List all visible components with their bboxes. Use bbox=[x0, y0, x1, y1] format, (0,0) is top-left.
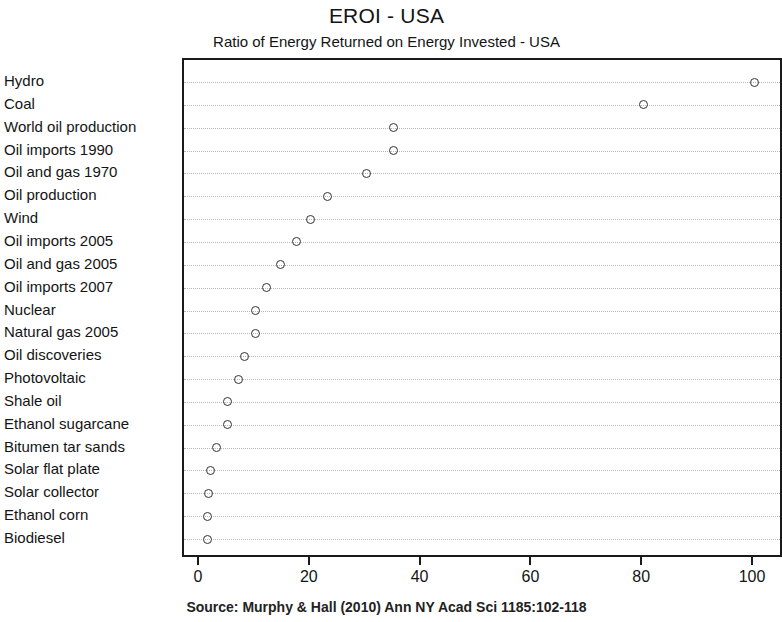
x-tick-mark bbox=[640, 557, 642, 565]
x-tick-label: 0 bbox=[194, 568, 203, 586]
category-label: Ethanol sugarcane bbox=[4, 415, 129, 430]
category-label: Oil and gas 1970 bbox=[4, 164, 117, 179]
category-label: Biodiesel bbox=[4, 530, 65, 545]
data-point-marker bbox=[362, 169, 371, 178]
plot-frame bbox=[182, 58, 782, 557]
x-tick-label: 60 bbox=[521, 568, 539, 586]
gridline bbox=[184, 242, 780, 243]
data-point-marker bbox=[251, 306, 260, 315]
gridline bbox=[184, 402, 780, 403]
gridline bbox=[184, 539, 780, 540]
data-point-marker bbox=[750, 78, 759, 87]
gridline bbox=[184, 493, 780, 494]
data-point-marker bbox=[240, 352, 249, 361]
x-tick-label: 40 bbox=[411, 568, 429, 586]
data-point-marker bbox=[323, 192, 332, 201]
category-label: Coal bbox=[4, 95, 35, 110]
data-point-marker bbox=[389, 123, 398, 132]
gridline bbox=[184, 333, 780, 334]
data-point-marker bbox=[234, 375, 243, 384]
data-point-marker bbox=[223, 397, 232, 406]
plot-area bbox=[184, 60, 780, 555]
category-label: Photovoltaic bbox=[4, 370, 86, 385]
category-label: Solar flat plate bbox=[4, 461, 100, 476]
x-tick-mark bbox=[419, 557, 421, 565]
gridline bbox=[184, 356, 780, 357]
data-point-marker bbox=[212, 443, 221, 452]
data-point-marker bbox=[306, 215, 315, 224]
gridline bbox=[184, 448, 780, 449]
category-axis-labels: HydroCoalWorld oil productionOil imports… bbox=[0, 58, 178, 557]
source-caption: Source: Murphy & Hall (2010) Ann NY Acad… bbox=[0, 599, 773, 615]
gridline bbox=[184, 82, 780, 83]
data-point-marker bbox=[203, 535, 212, 544]
gridline bbox=[184, 173, 780, 174]
category-label: Oil and gas 2005 bbox=[4, 255, 117, 270]
data-point-marker bbox=[206, 466, 215, 475]
category-label: Oil imports 1990 bbox=[4, 141, 113, 156]
category-label: Nuclear bbox=[4, 301, 56, 316]
x-tick-label: 80 bbox=[632, 568, 650, 586]
data-point-marker bbox=[389, 146, 398, 155]
x-tick-label: 100 bbox=[739, 568, 766, 586]
gridline bbox=[184, 379, 780, 380]
category-label: Bitumen tar sands bbox=[4, 438, 125, 453]
category-label: Oil discoveries bbox=[4, 347, 102, 362]
x-tick-mark bbox=[308, 557, 310, 565]
x-tick-mark bbox=[197, 557, 199, 565]
gridline bbox=[184, 425, 780, 426]
gridline bbox=[184, 288, 780, 289]
data-point-marker bbox=[204, 489, 213, 498]
gridline bbox=[184, 128, 780, 129]
category-label: Natural gas 2005 bbox=[4, 324, 118, 339]
data-point-marker bbox=[251, 329, 260, 338]
data-point-marker bbox=[276, 260, 285, 269]
gridline bbox=[184, 219, 780, 220]
category-label: Shale oil bbox=[4, 392, 62, 407]
category-label: Solar collector bbox=[4, 484, 99, 499]
category-label: Hydro bbox=[4, 73, 44, 88]
gridline bbox=[184, 516, 780, 517]
data-point-marker bbox=[292, 237, 301, 246]
data-point-marker bbox=[203, 512, 212, 521]
gridline bbox=[184, 470, 780, 471]
chart-subtitle: Ratio of Energy Returned on Energy Inves… bbox=[0, 33, 773, 50]
data-point-marker bbox=[262, 283, 271, 292]
data-point-marker bbox=[223, 420, 232, 429]
x-tick-mark bbox=[751, 557, 753, 565]
gridline bbox=[184, 196, 780, 197]
category-label: Wind bbox=[4, 210, 38, 225]
gridline bbox=[184, 311, 780, 312]
gridline bbox=[184, 105, 780, 106]
category-label: Oil imports 2005 bbox=[4, 232, 113, 247]
category-label: Oil production bbox=[4, 187, 97, 202]
category-label: Oil imports 2007 bbox=[4, 278, 113, 293]
chart-title: EROI - USA bbox=[0, 4, 773, 28]
x-tick-mark bbox=[529, 557, 531, 565]
gridline bbox=[184, 151, 780, 152]
category-label: World oil production bbox=[4, 118, 136, 133]
data-point-marker bbox=[639, 100, 648, 109]
x-axis: 020406080100 bbox=[182, 557, 782, 597]
category-label: Ethanol corn bbox=[4, 507, 88, 522]
x-tick-label: 20 bbox=[300, 568, 318, 586]
gridline bbox=[184, 265, 780, 266]
